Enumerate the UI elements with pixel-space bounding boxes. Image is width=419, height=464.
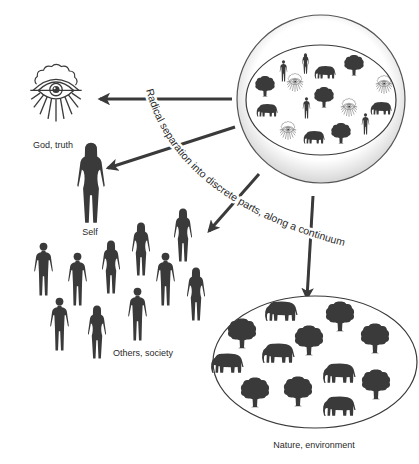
god-truth-label: God, truth <box>33 140 73 150</box>
others-figure-icon <box>34 243 53 296</box>
others-figure-icon <box>156 253 175 306</box>
whole-sphere <box>237 15 405 183</box>
others-figure-icon <box>102 241 120 294</box>
others-figure-icon <box>132 223 150 276</box>
diagram-canvas: Radical separation into discrete parts, … <box>0 0 419 464</box>
arrow-to-nature <box>307 196 313 298</box>
others-figure-icon <box>128 288 147 341</box>
others-society-label: Others, society <box>113 348 174 358</box>
others-figure-icon <box>187 268 205 321</box>
others-figure-icon <box>68 253 87 306</box>
all-seeing-eye-icon <box>30 64 81 121</box>
others-figure-icon <box>88 306 106 359</box>
self-label: Self <box>82 227 98 237</box>
others-node: Others, society <box>34 209 205 359</box>
nature-node: Nature, environment <box>211 296 417 450</box>
nature-ellipse <box>213 296 417 428</box>
others-figure-icon <box>174 209 192 262</box>
god-truth-node: God, truth <box>30 64 81 150</box>
others-figure-icon <box>50 298 69 351</box>
self-figure-icon <box>77 143 104 223</box>
self-node: Self <box>77 143 104 237</box>
nature-environment-label: Nature, environment <box>273 440 355 450</box>
